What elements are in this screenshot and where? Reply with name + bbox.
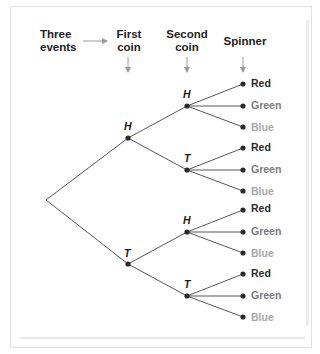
header-line: Three bbox=[40, 28, 76, 41]
node-first-h bbox=[125, 135, 130, 140]
label-second-tt: T bbox=[184, 278, 190, 290]
leaf-label-green: Green bbox=[251, 99, 281, 111]
leaf-label-green: Green bbox=[251, 289, 281, 301]
node-first-t bbox=[125, 261, 130, 266]
header-line: events bbox=[40, 41, 76, 54]
header-line: Second bbox=[164, 28, 210, 41]
leaf-node bbox=[240, 314, 245, 319]
leaf-node bbox=[240, 207, 245, 212]
header-line: coin bbox=[164, 41, 210, 54]
leaf-node bbox=[240, 271, 245, 276]
label-first-h: H bbox=[124, 120, 132, 132]
leaf-node bbox=[240, 145, 245, 150]
leaf-label-red: Red bbox=[251, 202, 271, 214]
label-second-ht: T bbox=[184, 152, 190, 164]
leaf-label-blue: Blue bbox=[251, 121, 274, 133]
leaf-node bbox=[240, 81, 245, 86]
node-second-ht bbox=[184, 167, 189, 172]
leaf-node bbox=[240, 167, 245, 172]
label-second-hh: H bbox=[183, 88, 191, 100]
leaf-label-blue: Blue bbox=[251, 311, 274, 323]
leaf-node bbox=[240, 124, 245, 129]
leaf-node bbox=[240, 103, 245, 108]
leaf-label-blue: Blue bbox=[251, 247, 274, 259]
leaf-label-red: Red bbox=[251, 267, 271, 279]
leaf-label-green: Green bbox=[251, 163, 281, 175]
leaf-label-green: Green bbox=[251, 225, 281, 237]
header-spinner: Spinner bbox=[220, 35, 270, 48]
leaf-node bbox=[240, 250, 245, 255]
header-line: First bbox=[112, 28, 146, 41]
leaf-node bbox=[240, 188, 245, 193]
node-second-tt bbox=[184, 293, 189, 298]
label-second-th: H bbox=[183, 214, 191, 226]
node-second-th bbox=[184, 229, 189, 234]
header-first-coin: First coin bbox=[112, 28, 146, 54]
header-three-events: Three events bbox=[40, 28, 76, 54]
header-line: coin bbox=[112, 41, 146, 54]
node-second-hh bbox=[184, 103, 189, 108]
leaf-node bbox=[240, 293, 245, 298]
leaf-label-red: Red bbox=[251, 141, 271, 153]
label-first-t: T bbox=[124, 247, 130, 259]
leaf-node bbox=[240, 229, 245, 234]
leaf-label-red: Red bbox=[251, 77, 271, 89]
header-line: Spinner bbox=[220, 35, 270, 48]
leaf-label-blue: Blue bbox=[251, 185, 274, 197]
header-second-coin: Second coin bbox=[164, 28, 210, 54]
